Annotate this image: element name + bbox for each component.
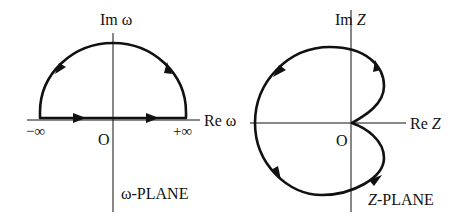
minus-infinity-label: −∞ <box>26 124 45 139</box>
re-prefix-text: Re <box>410 115 432 132</box>
z-imaginary-axis-label: Im Z <box>335 12 366 28</box>
re-omega-text: Re ω <box>204 112 236 129</box>
conformal-mapping-figure: Im ω Re ω −∞ O +∞ ω-PLANE Im Z Re Z O Z-… <box>0 0 461 222</box>
z-var-text: Z <box>432 115 441 132</box>
z-var-text: Z <box>357 11 366 28</box>
omega-imaginary-axis-label: Im ω <box>100 12 132 28</box>
z-plane-label: Z-PLANE <box>368 192 434 208</box>
omega-origin-label: O <box>98 132 110 148</box>
plus-infinity-label: +∞ <box>173 124 192 139</box>
arrow-right-icon <box>146 113 159 123</box>
omega-plane-label: ω-PLANE <box>121 186 188 202</box>
im-prefix-text: Im <box>335 11 357 28</box>
arrow-down-right-icon <box>271 166 281 180</box>
plane-suffix-text: -PLANE <box>377 191 434 208</box>
omega-real-axis-label: Re ω <box>204 113 236 129</box>
z-plane-diagram <box>250 10 406 212</box>
z-real-axis-label: Re Z <box>410 116 441 132</box>
diagram-graphics <box>0 0 461 222</box>
im-omega-text: Im ω <box>100 11 132 28</box>
arrow-right-icon <box>73 113 86 123</box>
z-origin-label: O <box>336 133 348 149</box>
z-var-text: Z <box>368 191 377 208</box>
